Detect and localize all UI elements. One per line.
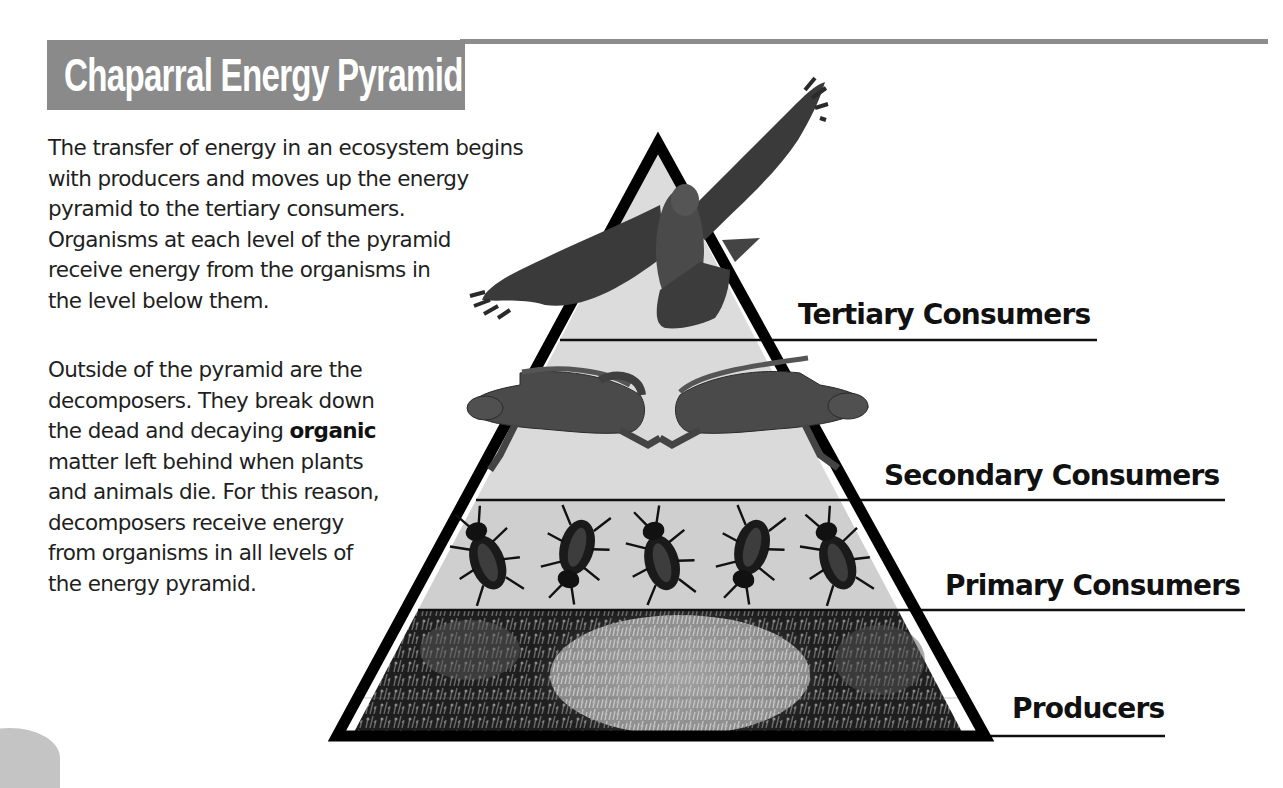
label-secondary-consumers: Secondary Consumers bbox=[884, 459, 1219, 492]
producers-band bbox=[352, 605, 964, 745]
label-tertiary-consumers: Tertiary Consumers bbox=[798, 298, 1090, 331]
label-producers: Producers bbox=[1012, 692, 1164, 725]
label-primary-consumers: Primary Consumers bbox=[945, 569, 1240, 602]
